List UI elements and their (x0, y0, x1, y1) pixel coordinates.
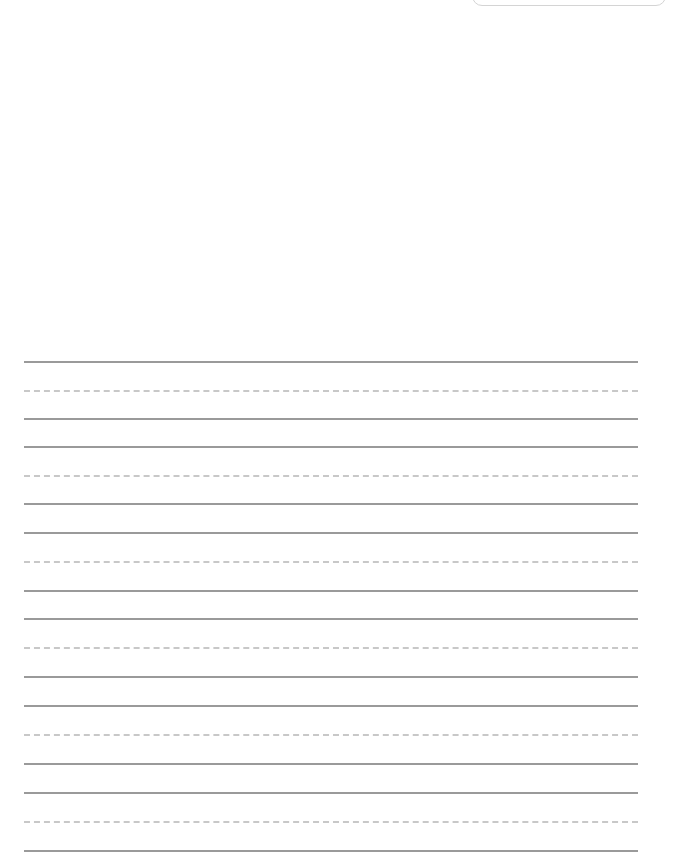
guide-line-mid-3 (24, 561, 638, 563)
guide-line-bottom-3 (24, 590, 638, 592)
guide-line-top-6 (24, 792, 638, 794)
guide-line-mid-4 (24, 647, 638, 649)
guide-line-top-2 (24, 446, 638, 448)
guide-line-bottom-4 (24, 676, 638, 678)
guide-line-mid-2 (24, 475, 638, 477)
guide-line-bottom-2 (24, 503, 638, 505)
guide-line-top-1 (24, 361, 638, 363)
guide-line-top-4 (24, 618, 638, 620)
guide-line-mid-6 (24, 821, 638, 823)
guide-line-top-3 (24, 532, 638, 534)
guide-line-mid-5 (24, 734, 638, 736)
guide-line-mid-1 (24, 390, 638, 392)
guide-line-bottom-5 (24, 763, 638, 765)
guide-line-bottom-6 (24, 850, 638, 852)
writing-lines-area (24, 0, 638, 861)
guide-line-top-5 (24, 705, 638, 707)
guide-line-bottom-1 (24, 418, 638, 420)
